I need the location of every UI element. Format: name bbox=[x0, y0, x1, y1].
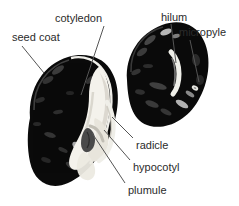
label-hilum: hilum bbox=[161, 11, 187, 23]
leader-seed-coat bbox=[22, 46, 44, 73]
left-seed-group bbox=[28, 55, 118, 186]
bean-seed-diagram: seed coat cotyledon hilum micropyle radi… bbox=[0, 0, 239, 206]
label-seed-coat: seed coat bbox=[12, 31, 60, 43]
label-cotyledon: cotyledon bbox=[55, 12, 102, 24]
label-micropyle: micropyle bbox=[179, 26, 226, 38]
label-radicle: radicle bbox=[136, 139, 168, 151]
label-plumule: plumule bbox=[128, 184, 167, 196]
label-hypocotyl: hypocotyl bbox=[133, 161, 179, 173]
